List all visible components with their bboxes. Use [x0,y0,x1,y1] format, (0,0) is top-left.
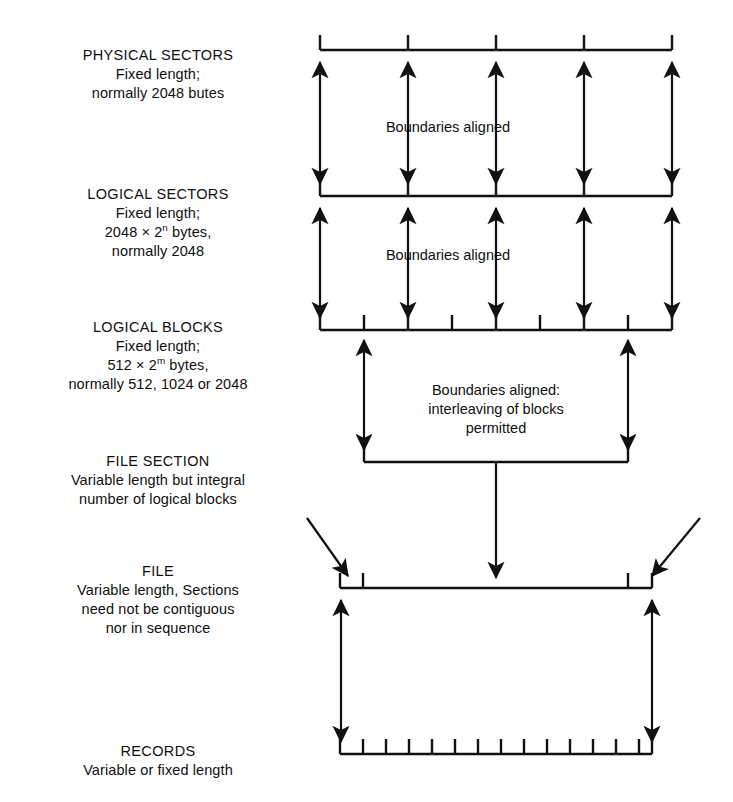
logical-blocks-line3-exponent: m [157,355,165,366]
label-file: FILE Variable length, Sections need not … [0,562,316,637]
physical-sectors-line2: Fixed length; [0,65,316,84]
boundaries-aligned-2-text: Boundaries aligned [386,247,510,263]
file-line4: nor in sequence [0,619,316,638]
logical-sectors-line2: Fixed length; [0,204,316,223]
label-physical-sectors: PHYSICAL SECTORS Fixed length; normally … [0,46,316,103]
logical-blocks-line4: normally 512, 1024 or 2048 [0,375,316,394]
logical-blocks-bar [320,315,672,330]
logical-sectors-line3-suffix: bytes, [168,224,211,240]
records-title: RECORDS [0,742,316,761]
logical-blocks-line2: Fixed length; [0,337,316,356]
logical-sectors-line3-prefix: 2048 × 2 [105,224,163,240]
records-line2: Variable or fixed length [0,761,316,780]
file-title: FILE [0,562,316,581]
records-bar [340,739,652,754]
logical-blocks-line3-suffix: bytes, [165,357,208,373]
interleaving-line3: permitted [380,419,612,438]
section-to-file-diagonal-arrows [307,518,700,576]
logical-sectors-line4: normally 2048 [0,242,316,261]
logical-blocks-line3: 512 × 2m bytes, [0,356,316,375]
annotation-boundaries-aligned-1: Boundaries aligned [336,118,560,137]
label-logical-blocks: LOGICAL BLOCKS Fixed length; 512 × 2m by… [0,318,316,393]
file-line2: Variable length, Sections [0,581,316,600]
label-file-section: FILE SECTION Variable length but integra… [0,452,316,509]
file-section-line3: number of logical blocks [0,490,316,509]
file-section-bar [364,447,628,462]
logical-sectors-title: LOGICAL SECTORS [0,185,316,204]
interleaving-line1: Boundaries aligned: [380,381,612,400]
physical-sectors-bar [320,35,672,50]
label-logical-sectors: LOGICAL SECTORS Fixed length; 2048 × 2n … [0,185,316,260]
file-section-line2: Variable length but integral [0,471,316,490]
logical-blocks-title: LOGICAL BLOCKS [0,318,316,337]
logical-blocks-line3-prefix: 512 × 2 [107,357,156,373]
logical-sectors-line3: 2048 × 2n bytes, [0,223,316,242]
interleaving-line2: interleaving of blocks [380,400,612,419]
physical-sectors-title: PHYSICAL SECTORS [0,46,316,65]
physical-sectors-line3: normally 2048 butes [0,84,316,103]
file-line3: need not be contiguous [0,600,316,619]
diagram-canvas: PHYSICAL SECTORS Fixed length; normally … [0,0,733,802]
alignment-arrows-band-4 [341,600,652,742]
label-records: RECORDS Variable or fixed length [0,742,316,780]
boundaries-aligned-1-text: Boundaries aligned [386,119,510,135]
annotation-boundaries-aligned-2: Boundaries aligned [336,246,560,265]
logical-sectors-bar [320,181,672,196]
file-section-title: FILE SECTION [0,452,316,471]
annotation-interleaving: Boundaries aligned: interleaving of bloc… [380,381,612,438]
